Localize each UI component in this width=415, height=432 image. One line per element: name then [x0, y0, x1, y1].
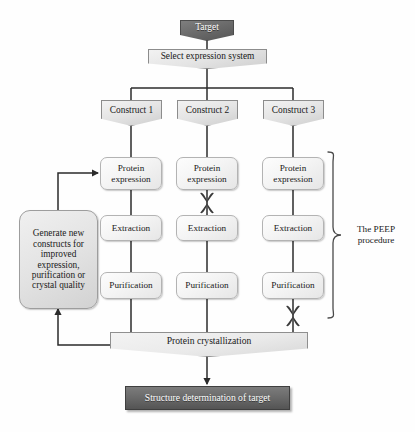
node-extraction-3-label: Extraction: [274, 223, 312, 233]
node-purification-2-label: Purification: [185, 280, 228, 290]
node-protein-crystallization-label: Protein crystallization: [167, 336, 251, 347]
node-construct-3-label: Construct 3: [272, 105, 316, 116]
edge-generate-to-expression1: [58, 173, 98, 210]
node-protein-expression-2-label: Protein expression: [179, 163, 235, 184]
node-construct-1[interactable]: Construct 1: [101, 100, 162, 126]
node-extraction-1[interactable]: Extraction: [100, 215, 162, 241]
peep-procedure-label: The PEEP procedure: [345, 224, 407, 246]
node-purification-2[interactable]: Purification: [176, 272, 238, 299]
flowchart-canvas: Target Select expression system Construc…: [0, 0, 415, 432]
node-protein-crystallization[interactable]: Protein crystallization: [110, 332, 308, 357]
node-protein-expression-2[interactable]: Protein expression: [176, 157, 238, 190]
node-construct-2[interactable]: Construct 2: [177, 100, 238, 126]
x-blocker-construct-2-icon: [197, 192, 217, 214]
x-blocker-construct-3-icon: [283, 305, 303, 327]
node-structure-determination[interactable]: Structure determination of target: [125, 386, 290, 410]
node-purification-3-label: Purification: [271, 280, 314, 290]
node-target-label: Target: [195, 22, 219, 33]
peep-procedure-label-line-2: procedure: [345, 235, 407, 246]
node-generate-new-constructs-label: Generate new constructs for improved exp…: [25, 228, 92, 290]
node-protein-expression-3[interactable]: Protein expression: [262, 157, 324, 190]
node-protein-expression-3-label: Protein expression: [265, 163, 321, 184]
node-purification-1[interactable]: Purification: [100, 272, 162, 299]
node-purification-1-label: Purification: [109, 280, 152, 290]
node-purification-3[interactable]: Purification: [262, 272, 324, 299]
node-structure-determination-label: Structure determination of target: [145, 393, 270, 404]
node-extraction-1-label: Extraction: [112, 223, 150, 233]
node-construct-3[interactable]: Construct 3: [263, 100, 324, 126]
node-construct-1-label: Construct 1: [110, 105, 154, 116]
node-extraction-2[interactable]: Extraction: [176, 215, 238, 241]
node-extraction-3[interactable]: Extraction: [262, 215, 324, 241]
peep-procedure-label-line-1: The PEEP: [345, 224, 407, 235]
node-protein-expression-1[interactable]: Protein expression: [100, 157, 162, 190]
node-target[interactable]: Target: [180, 20, 234, 41]
peep-bracket-brace: [328, 152, 341, 318]
node-select-expression-system-label: Select expression system: [161, 51, 255, 62]
node-select-expression-system[interactable]: Select expression system: [148, 49, 267, 69]
node-construct-2-label: Construct 2: [186, 105, 230, 116]
node-generate-new-constructs[interactable]: Generate new constructs for improved exp…: [19, 210, 98, 309]
node-extraction-2-label: Extraction: [188, 223, 226, 233]
node-protein-expression-1-label: Protein expression: [103, 163, 159, 184]
edge-crystallization-to-generate: [58, 309, 110, 345]
